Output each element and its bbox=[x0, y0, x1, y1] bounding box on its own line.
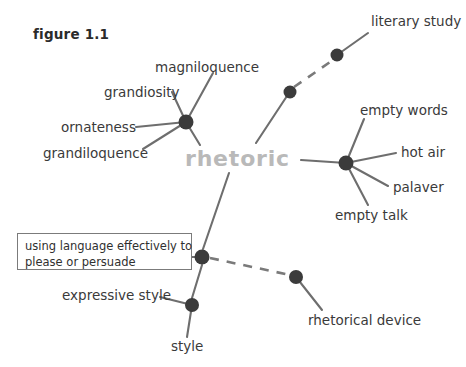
node-empty-talk-hub[interactable] bbox=[339, 156, 354, 171]
label-palaver: palaver bbox=[393, 180, 444, 195]
label-magniloquence: magniloquence bbox=[155, 60, 259, 75]
node-literary-lower[interactable] bbox=[284, 86, 297, 99]
node-style-hub[interactable] bbox=[185, 298, 199, 312]
label-ornateness: ornateness bbox=[61, 120, 136, 135]
label-literary-study: literary study bbox=[371, 14, 461, 29]
gloss-line-1: using language effectively to bbox=[25, 239, 184, 255]
semantic-network-diagram: figure 1.1 rhetoric magniloquence grandi… bbox=[0, 0, 466, 367]
gloss-definition-box: using language effectively to please or … bbox=[17, 233, 192, 270]
edge-dashed-literary-link bbox=[294, 60, 333, 87]
label-style: style bbox=[171, 339, 203, 354]
node-rhetorical-device[interactable] bbox=[289, 270, 303, 284]
edge-gloss-hub-to-style-hub bbox=[192, 265, 202, 298]
label-expressive-style: expressive style bbox=[62, 288, 171, 303]
label-rhetorical-device: rhetorical device bbox=[308, 313, 421, 328]
node-grandiosity-hub[interactable] bbox=[179, 115, 194, 130]
figure-caption: figure 1.1 bbox=[33, 26, 109, 42]
edge-rhetoric-to-literary-node bbox=[256, 96, 287, 143]
edge-hub-to-magniloquence bbox=[186, 73, 213, 122]
edge-hub-to-hot-air bbox=[346, 153, 396, 163]
label-hot-air: hot air bbox=[401, 145, 445, 160]
label-grandiloquence: grandiloquence bbox=[43, 146, 148, 161]
edge-rhetoric-to-gloss-hub bbox=[203, 173, 229, 249]
gloss-line-2: please or persuade bbox=[25, 255, 184, 271]
edge-dashed-rhetorical-device-link bbox=[210, 258, 290, 275]
label-empty-talk: empty talk bbox=[335, 208, 408, 223]
label-empty-words: empty words bbox=[360, 103, 448, 118]
node-literary-upper[interactable] bbox=[331, 49, 344, 62]
center-term-rhetoric: rhetoric bbox=[185, 146, 290, 171]
node-gloss-hub[interactable] bbox=[195, 250, 210, 265]
label-grandiosity: grandiosity bbox=[104, 85, 180, 100]
